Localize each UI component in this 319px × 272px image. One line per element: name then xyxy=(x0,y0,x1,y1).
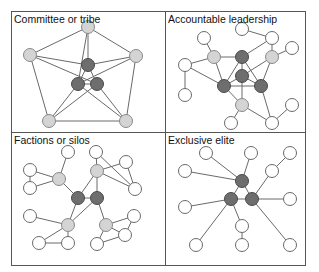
outer-node xyxy=(179,201,192,214)
core-node xyxy=(91,192,104,205)
outer-node xyxy=(284,239,297,252)
panel-title-factions-or-silos: Factions or silos xyxy=(14,134,90,146)
outer-node xyxy=(179,59,192,72)
outer-node xyxy=(286,42,299,55)
outer-node xyxy=(266,32,279,45)
core-node xyxy=(246,193,259,206)
core-node xyxy=(255,80,268,93)
core-node xyxy=(225,193,238,206)
outer-node xyxy=(120,156,133,169)
outer-node xyxy=(284,147,297,160)
core-node xyxy=(236,51,249,64)
core-node xyxy=(236,175,249,188)
core-node xyxy=(82,59,95,72)
mid-node xyxy=(208,51,221,64)
outer-node xyxy=(91,238,104,251)
outer-node xyxy=(179,165,192,178)
outer-node xyxy=(90,146,103,159)
core-node xyxy=(91,78,104,91)
mid-node xyxy=(130,50,143,63)
panel-title-committee-or-tribe: Committee or tribe xyxy=(14,13,100,25)
mid-node xyxy=(24,49,37,62)
outer-node xyxy=(245,147,258,160)
panel-title-exclusive-elite: Exclusive elite xyxy=(168,134,235,146)
outer-node xyxy=(266,165,279,178)
mid-node xyxy=(120,115,133,128)
outer-node xyxy=(200,147,213,160)
mid-node xyxy=(266,51,279,64)
core-node xyxy=(72,78,85,91)
outer-node xyxy=(266,117,279,130)
outer-node xyxy=(236,239,249,252)
outer-node xyxy=(236,220,249,233)
panel-title-accountable-leadership: Accountable leadership xyxy=(168,13,277,25)
outer-node xyxy=(129,183,142,196)
outer-node xyxy=(128,210,141,223)
outer-node xyxy=(33,237,46,250)
outer-node xyxy=(62,146,75,159)
outer-node xyxy=(284,193,297,206)
mid-node xyxy=(236,99,249,112)
outer-node xyxy=(198,32,211,45)
outer-node xyxy=(24,210,37,223)
outer-node xyxy=(179,89,192,102)
mid-node xyxy=(43,115,56,128)
outer-node xyxy=(119,229,132,242)
core-node xyxy=(236,70,249,83)
mid-node xyxy=(62,219,75,232)
outer-node xyxy=(286,99,299,112)
outer-node xyxy=(24,182,37,195)
outer-node xyxy=(62,237,75,250)
core-node xyxy=(218,80,231,93)
mid-node xyxy=(91,165,104,178)
mid-node xyxy=(53,173,66,186)
outer-node xyxy=(225,117,238,130)
mid-node xyxy=(100,219,113,232)
outer-node xyxy=(24,164,37,177)
outer-node xyxy=(190,239,203,252)
core-node xyxy=(72,192,85,205)
